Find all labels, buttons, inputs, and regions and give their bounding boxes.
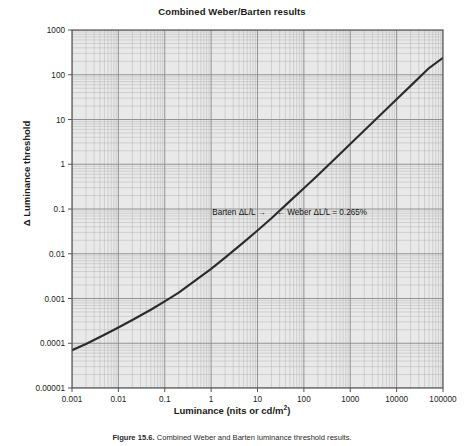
y-tick-label: 100 [51, 71, 65, 80]
y-tick-label: 0.01 [49, 250, 65, 259]
figure-caption-text: Combined Weber and Barten luminance thre… [155, 433, 352, 442]
x-tick-label: 10000 [385, 395, 408, 404]
x-tick-label: 100 [297, 395, 311, 404]
y-tick-label: 0.0001 [40, 339, 65, 348]
figure-caption: Figure 15.6. Combined Weber and Barten l… [22, 432, 442, 445]
x-tick-label: 10 [253, 395, 263, 404]
x-tick-label: 0.001 [62, 395, 83, 404]
y-tick-label: 0.1 [54, 205, 66, 214]
y-tick-label: 0.00001 [35, 384, 65, 393]
figure-caption-label: Figure 15.6. [112, 433, 154, 442]
barten-annotation: Barten ΔL/L → [212, 208, 265, 217]
y-tick-label: 10 [56, 116, 66, 125]
y-tick-label: 1000 [47, 26, 66, 35]
x-tick-label: 1 [209, 395, 214, 404]
y-tick-label: 0.001 [45, 295, 66, 304]
x-tick-label: 0.01 [110, 395, 126, 404]
chart-annotations: Barten ΔL/L →← Weber ΔL/L = 0.265% [212, 208, 367, 217]
x-tick-label: 0.1 [159, 395, 171, 404]
y-tick-label: 1 [60, 160, 65, 169]
x-tick-label: 100000 [429, 395, 457, 404]
weber-annotation: ← Weber ΔL/L = 0.265% [277, 208, 367, 217]
figure-container: Combined Weber/Barten results Δ Luminanc… [0, 0, 464, 446]
x-tick-label: 1000 [341, 395, 360, 404]
y-tick-labels: 10001001010.10.010.0010.00010.00001 [35, 26, 65, 393]
chart-plot: 10001001010.10.010.0010.00010.00001 0.00… [0, 0, 464, 446]
x-tick-labels: 0.0010.010.1110100100010000100000 [62, 395, 457, 404]
